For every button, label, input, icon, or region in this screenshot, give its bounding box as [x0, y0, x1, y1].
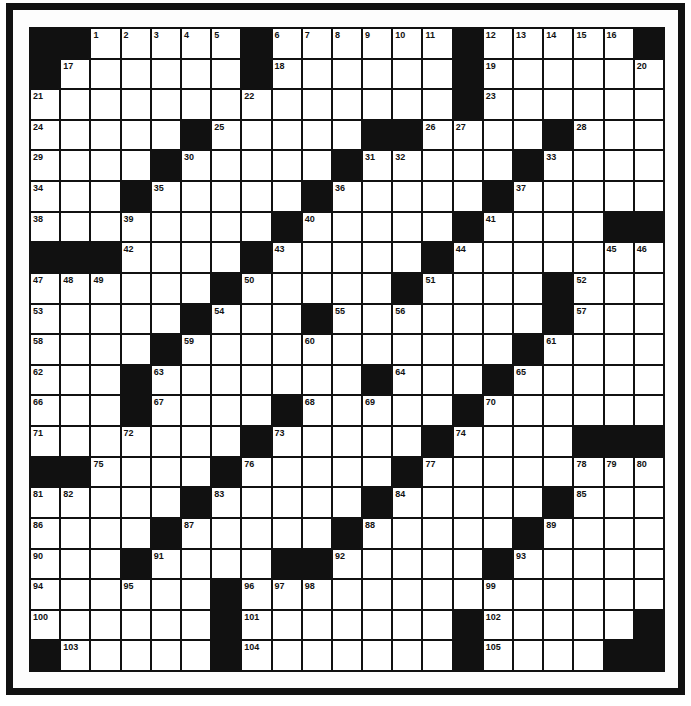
grid-cell[interactable] [303, 60, 331, 89]
grid-cell[interactable]: 11 [423, 29, 451, 58]
grid-cell[interactable] [333, 60, 361, 89]
grid-cell[interactable] [303, 366, 331, 395]
grid-cell[interactable]: 103 [61, 641, 89, 670]
grid-cell[interactable] [242, 182, 270, 211]
grid-cell[interactable]: 86 [31, 519, 59, 548]
grid-cell[interactable] [212, 213, 240, 242]
grid-cell[interactable] [91, 335, 119, 364]
grid-cell[interactable] [122, 641, 150, 670]
grid-cell[interactable]: 30 [182, 151, 210, 180]
grid-cell[interactable]: 44 [454, 243, 482, 272]
grid-cell[interactable]: 14 [544, 29, 572, 58]
grid-cell[interactable]: 94 [31, 580, 59, 609]
grid-cell[interactable]: 19 [484, 60, 512, 89]
grid-cell[interactable] [242, 121, 270, 150]
grid-cell[interactable]: 50 [242, 274, 270, 303]
grid-cell[interactable] [212, 519, 240, 548]
grid-cell[interactable] [544, 213, 572, 242]
grid-cell[interactable] [605, 335, 633, 364]
grid-cell[interactable]: 38 [31, 213, 59, 242]
grid-cell[interactable] [605, 396, 633, 425]
grid-cell[interactable]: 5 [212, 29, 240, 58]
grid-cell[interactable] [605, 550, 633, 579]
grid-cell[interactable] [212, 243, 240, 272]
grid-cell[interactable] [544, 550, 572, 579]
grid-cell[interactable] [544, 396, 572, 425]
grid-cell[interactable] [333, 396, 361, 425]
grid-cell[interactable] [273, 488, 301, 517]
grid-cell[interactable] [514, 580, 542, 609]
grid-cell[interactable] [182, 213, 210, 242]
grid-cell[interactable] [393, 60, 421, 89]
grid-cell[interactable]: 84 [393, 488, 421, 517]
grid-cell[interactable] [152, 458, 180, 487]
grid-cell[interactable] [423, 396, 451, 425]
grid-cell[interactable] [514, 274, 542, 303]
grid-cell[interactable] [605, 151, 633, 180]
grid-cell[interactable]: 39 [122, 213, 150, 242]
grid-cell[interactable]: 100 [31, 611, 59, 640]
grid-cell[interactable] [393, 396, 421, 425]
grid-cell[interactable] [61, 151, 89, 180]
grid-cell[interactable] [91, 60, 119, 89]
grid-cell[interactable] [544, 641, 572, 670]
grid-cell[interactable] [363, 550, 391, 579]
grid-cell[interactable] [273, 458, 301, 487]
grid-cell[interactable]: 37 [514, 182, 542, 211]
grid-cell[interactable] [635, 519, 663, 548]
grid-cell[interactable]: 89 [544, 519, 572, 548]
grid-cell[interactable] [61, 182, 89, 211]
grid-cell[interactable] [333, 580, 361, 609]
grid-cell[interactable]: 3 [152, 29, 180, 58]
grid-cell[interactable] [514, 458, 542, 487]
grid-cell[interactable] [393, 580, 421, 609]
grid-cell[interactable] [182, 580, 210, 609]
grid-cell[interactable]: 31 [363, 151, 391, 180]
grid-cell[interactable] [605, 611, 633, 640]
grid-cell[interactable] [182, 458, 210, 487]
grid-cell[interactable]: 18 [273, 60, 301, 89]
grid-cell[interactable]: 2 [122, 29, 150, 58]
grid-cell[interactable]: 60 [303, 335, 331, 364]
grid-cell[interactable] [363, 60, 391, 89]
grid-cell[interactable] [363, 335, 391, 364]
grid-cell[interactable] [423, 335, 451, 364]
grid-cell[interactable] [393, 90, 421, 119]
grid-cell[interactable] [393, 243, 421, 272]
grid-cell[interactable] [152, 213, 180, 242]
grid-cell[interactable] [393, 611, 421, 640]
grid-cell[interactable] [91, 519, 119, 548]
grid-cell[interactable] [484, 458, 512, 487]
grid-cell[interactable]: 35 [152, 182, 180, 211]
grid-cell[interactable] [61, 580, 89, 609]
grid-cell[interactable]: 42 [122, 243, 150, 272]
grid-cell[interactable] [152, 274, 180, 303]
grid-cell[interactable]: 85 [574, 488, 602, 517]
grid-cell[interactable]: 49 [91, 274, 119, 303]
grid-cell[interactable] [574, 182, 602, 211]
grid-cell[interactable] [574, 580, 602, 609]
grid-cell[interactable]: 52 [574, 274, 602, 303]
grid-cell[interactable] [454, 274, 482, 303]
grid-cell[interactable]: 102 [484, 611, 512, 640]
grid-cell[interactable] [182, 427, 210, 456]
grid-cell[interactable] [122, 488, 150, 517]
grid-cell[interactable]: 28 [574, 121, 602, 150]
grid-cell[interactable] [635, 121, 663, 150]
grid-cell[interactable]: 33 [544, 151, 572, 180]
grid-cell[interactable] [212, 427, 240, 456]
grid-cell[interactable] [303, 519, 331, 548]
grid-cell[interactable]: 65 [514, 366, 542, 395]
grid-cell[interactable] [122, 458, 150, 487]
grid-cell[interactable] [212, 60, 240, 89]
grid-cell[interactable] [333, 488, 361, 517]
grid-cell[interactable] [273, 641, 301, 670]
grid-cell[interactable] [635, 366, 663, 395]
grid-cell[interactable] [212, 550, 240, 579]
grid-cell[interactable] [242, 396, 270, 425]
grid-cell[interactable] [423, 641, 451, 670]
grid-cell[interactable]: 22 [242, 90, 270, 119]
grid-cell[interactable] [393, 641, 421, 670]
grid-cell[interactable] [212, 90, 240, 119]
grid-cell[interactable] [454, 580, 482, 609]
